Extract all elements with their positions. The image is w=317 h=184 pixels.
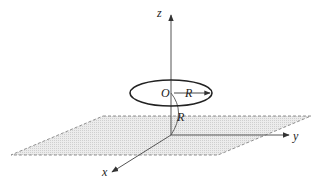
radius-label: R <box>184 86 193 100</box>
origin-label: O <box>161 86 170 100</box>
height-label: R <box>176 110 185 124</box>
ring-above-plane-diagram: z y x O R R <box>0 0 317 184</box>
x-axis-label: x <box>101 165 108 179</box>
z-axis-label: z <box>156 6 162 20</box>
y-axis-label: y <box>292 129 299 143</box>
